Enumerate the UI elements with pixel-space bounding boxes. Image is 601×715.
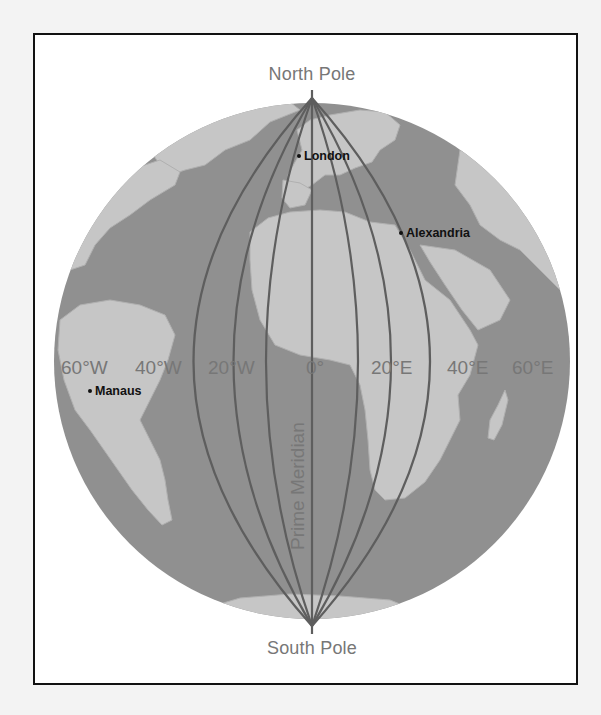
- city-london: London: [297, 149, 350, 163]
- longitude-label-0: 0°: [306, 357, 324, 379]
- globe-map: North Pole South Pole 60°W 40°W 20°W 0° …: [0, 0, 601, 715]
- longitude-label-20w: 20°W: [208, 357, 255, 379]
- city-london-label: London: [304, 149, 350, 163]
- longitude-label-40w: 40°W: [135, 357, 182, 379]
- south-pole-label: South Pole: [212, 638, 412, 659]
- city-dot-icon: [399, 231, 403, 235]
- longitude-label-60e: 60°E: [512, 357, 553, 379]
- city-dot-icon: [88, 389, 92, 393]
- longitude-label-60w: 60°W: [61, 357, 108, 379]
- longitude-label-40e: 40°E: [447, 357, 488, 379]
- city-dot-icon: [297, 154, 301, 158]
- prime-meridian-label: Prime Meridian: [287, 422, 309, 550]
- city-manaus-label: Manaus: [95, 384, 142, 398]
- city-alexandria-label: Alexandria: [406, 226, 470, 240]
- longitude-label-20e: 20°E: [371, 357, 412, 379]
- city-alexandria: Alexandria: [399, 226, 470, 240]
- north-pole-label: North Pole: [212, 64, 412, 85]
- city-manaus: Manaus: [88, 384, 142, 398]
